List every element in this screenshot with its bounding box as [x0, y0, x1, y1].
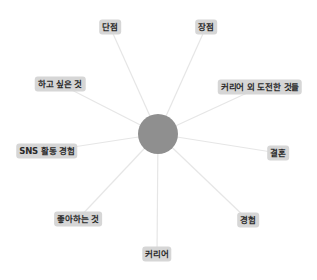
node-want-to-do[interactable]: 하고 싶은 것: [35, 77, 86, 92]
central-hub-node[interactable]: [138, 114, 178, 154]
node-experience[interactable]: 경험: [237, 213, 259, 228]
node-strength[interactable]: 장점: [195, 20, 217, 35]
node-marriage[interactable]: 결혼: [267, 146, 289, 161]
node-sns-experience[interactable]: SNS 활동 경험: [16, 144, 77, 159]
node-weakness[interactable]: 단점: [99, 20, 121, 35]
node-non-career-challenges[interactable]: 커리어 외 도전한 것들: [218, 80, 302, 95]
node-likes[interactable]: 좋아하는 것: [54, 212, 102, 227]
node-career[interactable]: 커리어: [142, 247, 171, 262]
mind-map-canvas: 단점장점하고 싶은 것커리어 외 도전한 것들SNS 활동 경험결혼좋아하는 것…: [0, 0, 317, 280]
